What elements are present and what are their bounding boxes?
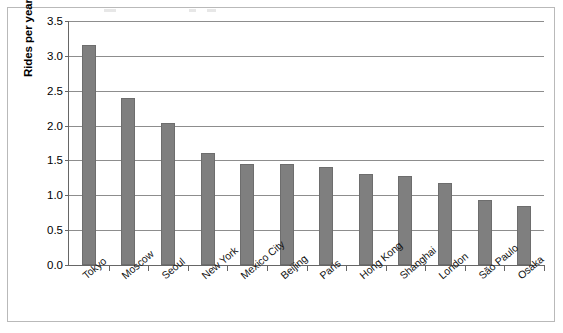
scan-artifact: [189, 9, 196, 12]
scan-artifact: [104, 9, 116, 12]
y-tick-mark: [65, 265, 69, 266]
x-tick-mark: [148, 265, 149, 271]
bar[interactable]: [517, 206, 531, 265]
bar[interactable]: [438, 183, 452, 265]
bar[interactable]: [398, 176, 412, 265]
y-tick-label: 1.5: [47, 154, 63, 166]
scan-artifact: [207, 9, 216, 12]
y-tick-label: 1.0: [47, 189, 63, 201]
y-axis-title: Rides per year in billions: [17, 0, 39, 77]
y-tick-label: 2.5: [47, 85, 63, 97]
x-tick-mark: [386, 265, 387, 271]
bar[interactable]: [201, 153, 215, 265]
bar-slot: [307, 21, 347, 265]
bar[interactable]: [161, 123, 175, 265]
bar-slot: [109, 21, 149, 265]
x-tick-mark: [227, 265, 228, 271]
x-tick-mark: [465, 265, 466, 271]
bar-slot: [346, 21, 386, 265]
plot-area: 0.00.51.01.52.02.53.03.5: [68, 21, 544, 266]
y-tick-label: 0.5: [47, 224, 63, 236]
bar[interactable]: [240, 164, 254, 265]
x-tick-mark: [544, 265, 545, 271]
x-tick-mark: [346, 265, 347, 271]
bar-slot: [69, 21, 109, 265]
bar[interactable]: [478, 200, 492, 265]
bar-slot: [425, 21, 465, 265]
x-tick-mark: [267, 265, 268, 271]
bar[interactable]: [121, 98, 135, 265]
bar[interactable]: [359, 174, 373, 265]
x-tick-mark: [307, 265, 308, 271]
bars-layer: [69, 21, 544, 265]
x-axis-labels: TokyoMoscowSeoulNew YorkMexico CityBeiji…: [68, 272, 543, 330]
bar-slot: [148, 21, 188, 265]
y-tick-label: 3.0: [47, 50, 63, 62]
bar-slot: [188, 21, 228, 265]
bar-slot: [504, 21, 544, 265]
bar-slot: [465, 21, 505, 265]
bar-slot: [267, 21, 307, 265]
y-tick-label: 2.0: [47, 120, 63, 132]
x-tick-mark: [188, 265, 189, 271]
x-tick-mark: [425, 265, 426, 271]
y-tick-label: 0.0: [47, 259, 63, 271]
bar-slot: [386, 21, 426, 265]
y-tick-label: 3.5: [47, 15, 63, 27]
bar[interactable]: [319, 167, 333, 265]
bar[interactable]: [82, 45, 96, 265]
x-tick-mark: [109, 265, 110, 271]
x-tick-mark: [504, 265, 505, 271]
bar-slot: [227, 21, 267, 265]
